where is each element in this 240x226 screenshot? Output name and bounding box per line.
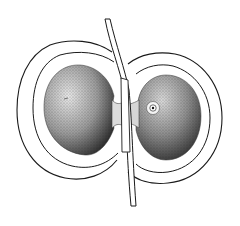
right-cell [136,75,201,160]
pore-icon [147,102,160,115]
illustration-svg [0,0,240,226]
illustration [0,0,240,226]
left-cell [44,65,114,155]
